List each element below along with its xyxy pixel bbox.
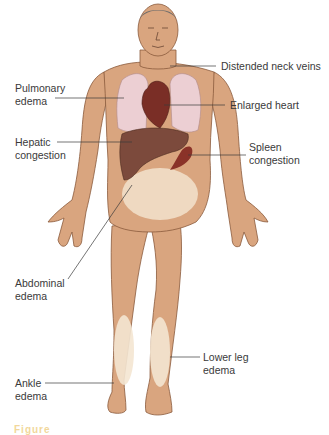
label-lower-leg-edema: Lower leg edema (203, 351, 249, 376)
head (138, 4, 178, 56)
label-pulmonary-edema: Pulmonary edema (15, 82, 65, 107)
label-abdominal-edema: Abdominal edema (15, 277, 65, 302)
label-spleen-congestion: Spleen congestion (249, 141, 300, 166)
label-ankle-edema: Ankle edema (15, 377, 47, 402)
label-hepatic-congestion: Hepatic congestion (15, 136, 66, 161)
legs (108, 222, 182, 415)
leg-edema-highlight (114, 315, 170, 387)
label-distended-neck-veins: Distended neck veins (221, 60, 321, 73)
label-enlarged-heart: Enlarged heart (230, 99, 299, 112)
figure-caption: Figure (14, 424, 51, 435)
